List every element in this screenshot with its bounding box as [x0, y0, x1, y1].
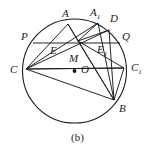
point-label-subscript: 1	[138, 68, 142, 76]
figure-caption: (b)	[0, 131, 155, 143]
chord-C-C1b	[26, 68, 124, 69]
point-label-subscript: 1	[104, 50, 108, 58]
point-label-q: Q	[122, 31, 130, 42]
point-label-e1: E1	[97, 44, 107, 58]
point-label-e: E	[50, 45, 57, 56]
chord-C-B	[26, 69, 114, 100]
point-label-d: D	[110, 13, 118, 24]
chord-D-M	[78, 30, 109, 41]
point-label-p: P	[21, 31, 28, 42]
point-label-subscript: 1	[97, 13, 101, 21]
point-label-a: A	[62, 8, 69, 19]
point-label-b: B	[119, 103, 126, 114]
point-label-a1: A1	[90, 7, 100, 21]
point-label-o: O	[81, 64, 89, 75]
chord-A1-M	[78, 23, 98, 41]
geometry-figure: AA1DPQEE1MOCC1B (b)	[0, 0, 155, 152]
chord-C1-B	[114, 68, 124, 100]
point-label-c1: C1	[131, 62, 142, 76]
center-point-marker	[73, 69, 77, 73]
point-label-m: M	[69, 53, 78, 64]
point-label-c: C	[10, 64, 17, 75]
